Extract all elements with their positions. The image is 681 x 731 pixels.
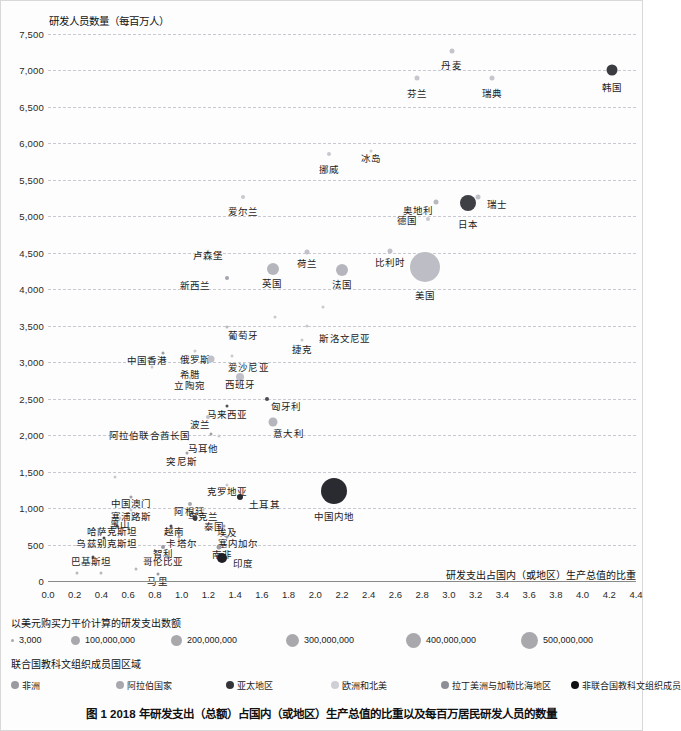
- region-legend-item[interactable]: 欧洲和北美: [331, 677, 387, 693]
- data-bubble[interactable]: [274, 315, 277, 318]
- region-legend-item[interactable]: 阿拉伯国家: [116, 677, 172, 693]
- data-bubble[interactable]: [336, 264, 348, 276]
- data-bubble[interactable]: [135, 568, 138, 571]
- data-bubble[interactable]: [161, 351, 164, 354]
- y-axis-title: 研发人员数量（每百万人）: [49, 13, 169, 28]
- data-bubble[interactable]: [306, 324, 309, 327]
- region-legend-item[interactable]: 非洲: [11, 677, 40, 693]
- x-tick-label: 0.2: [68, 589, 81, 600]
- region-legend: 非洲阿拉伯国家亚太地区欧洲和北美拉丁美洲与加勒比海地区非联合国教科文组织成员: [11, 677, 637, 693]
- x-tick-label: 1.0: [175, 589, 188, 600]
- data-bubble[interactable]: [226, 404, 229, 407]
- size-legend-bubble-icon: [171, 635, 182, 646]
- data-point-label: 西班牙: [225, 380, 255, 390]
- data-bubble[interactable]: [321, 478, 347, 504]
- data-point-label: 新西兰: [180, 281, 210, 291]
- data-bubble[interactable]: [305, 250, 310, 255]
- data-bubble[interactable]: [226, 326, 229, 329]
- data-point-label: 哥伦比亚: [143, 557, 183, 567]
- data-bubble[interactable]: [388, 249, 393, 254]
- region-legend-item[interactable]: 非联合国教科文组织成员: [571, 677, 681, 693]
- gridline: [48, 216, 636, 217]
- data-bubble[interactable]: [606, 65, 617, 76]
- size-legend-item: 100,000,000: [71, 629, 135, 651]
- data-bubble[interactable]: [300, 338, 303, 341]
- data-bubble[interactable]: [218, 434, 221, 437]
- region-legend-label: 欧洲和北美: [342, 679, 387, 692]
- size-legend-item: 400,000,000: [406, 629, 476, 651]
- data-bubble[interactable]: [410, 252, 440, 282]
- y-tick-label: 1,000: [19, 503, 44, 514]
- size-legend-label: 200,000,000: [187, 635, 237, 645]
- y-tick-label: 2,500: [19, 393, 44, 404]
- data-point-label: 冰岛: [361, 154, 381, 164]
- data-bubble[interactable]: [327, 152, 331, 156]
- data-bubble[interactable]: [188, 376, 191, 379]
- data-bubble[interactable]: [267, 263, 279, 275]
- data-bubble[interactable]: [241, 195, 245, 199]
- region-legend-item[interactable]: 拉丁美洲与加勒比海地区: [441, 677, 551, 693]
- data-point-label: 俄罗斯: [180, 355, 210, 365]
- data-point-label: 突尼斯: [166, 457, 196, 467]
- data-bubble[interactable]: [449, 48, 454, 53]
- data-point-label: 英国: [262, 279, 282, 289]
- data-point-label: 芬兰: [407, 89, 427, 99]
- x-tick-label: 2.4: [362, 589, 375, 600]
- data-bubble[interactable]: [151, 365, 154, 368]
- data-bubble[interactable]: [265, 397, 269, 401]
- data-point-label: 乌兹别克斯坦: [76, 539, 137, 549]
- data-point-label: 哈萨克斯坦: [87, 527, 138, 537]
- size-legend-label: 400,000,000: [426, 635, 476, 645]
- data-point-label: 阿拉伯联合酋长国: [109, 431, 190, 441]
- data-bubble[interactable]: [188, 502, 192, 506]
- gridline: [48, 180, 636, 181]
- y-tick-label: 4,500: [19, 247, 44, 258]
- data-bubble[interactable]: [208, 356, 215, 363]
- data-bubble[interactable]: [210, 432, 213, 435]
- data-bubble[interactable]: [193, 515, 198, 520]
- data-point-label: 爱尔兰: [228, 207, 258, 217]
- data-bubble[interactable]: [489, 75, 494, 80]
- data-bubble[interactable]: [433, 200, 438, 205]
- data-point-label: 意大利: [273, 429, 303, 439]
- size-legend-item: 300,000,000: [286, 629, 354, 651]
- plot-area: 韩国丹麦芬兰瑞典挪威冰岛爱尔兰瑞士奥地利日本德国卢森堡荷兰比利时美国英国法国新西…: [48, 34, 636, 581]
- data-point-label: 韩国: [602, 83, 622, 93]
- x-tick-label: 3.8: [549, 589, 562, 600]
- region-legend-label: 阿拉伯国家: [127, 679, 172, 692]
- data-bubble[interactable]: [322, 305, 325, 308]
- data-bubble[interactable]: [113, 476, 116, 479]
- y-tick-label: 5,500: [19, 174, 44, 185]
- data-bubble[interactable]: [268, 418, 277, 427]
- y-tick-label: 4,000: [19, 284, 44, 295]
- region-legend-title: 联合国教科文组织成员国区域: [11, 656, 141, 671]
- region-legend-item[interactable]: 亚太地区: [226, 677, 273, 693]
- region-legend-label: 非洲: [22, 679, 40, 692]
- data-point-label: 塞内加尔: [218, 539, 258, 549]
- gridline: [48, 107, 636, 108]
- data-bubble[interactable]: [237, 494, 243, 500]
- data-point-label: 波兰: [190, 420, 210, 430]
- data-point-label: 中国香港: [127, 356, 167, 366]
- data-point-label: 丹麦: [441, 61, 461, 71]
- region-legend-label: 拉丁美洲与加勒比海地区: [452, 679, 551, 692]
- data-bubble[interactable]: [476, 194, 481, 199]
- data-bubble[interactable]: [460, 195, 476, 211]
- data-bubble[interactable]: [231, 355, 234, 358]
- data-point-label: 土耳其: [249, 500, 279, 510]
- data-bubble[interactable]: [194, 349, 197, 352]
- region-legend-swatch-icon: [11, 681, 19, 689]
- x-tick-label: 3.2: [469, 589, 482, 600]
- data-bubble[interactable]: [100, 571, 103, 574]
- data-bubble[interactable]: [185, 451, 188, 454]
- data-bubble[interactable]: [76, 571, 79, 574]
- data-bubble[interactable]: [217, 553, 227, 563]
- data-point-label: 奥地利: [403, 206, 433, 216]
- size-legend-title: 以美元购买力平价计算的研发支出数额: [11, 615, 181, 630]
- data-bubble[interactable]: [225, 276, 229, 280]
- size-legend-bubble-icon: [406, 633, 421, 648]
- x-axis-ticks: 0.00.20.40.60.81.01.21.41.61.82.02.22.42…: [48, 589, 636, 605]
- data-bubble[interactable]: [414, 76, 419, 81]
- data-point-label: 越南: [164, 527, 184, 537]
- data-bubble[interactable]: [426, 217, 430, 221]
